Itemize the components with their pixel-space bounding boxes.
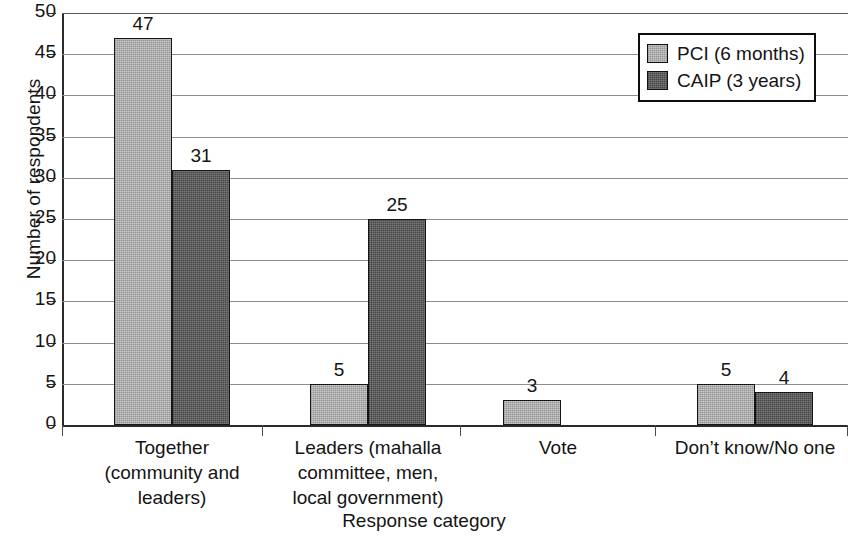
y-tick-label: 30 bbox=[16, 165, 56, 187]
bar-chart: Number of respondents 504540353025201510… bbox=[0, 0, 848, 541]
y-tick-mark bbox=[47, 260, 56, 261]
y-tick-label: 40 bbox=[16, 82, 56, 104]
bar bbox=[503, 400, 561, 425]
legend-label-pci: PCI (6 months) bbox=[677, 43, 805, 65]
gridline bbox=[62, 13, 848, 14]
y-tick-mark bbox=[47, 178, 56, 179]
y-axis-line bbox=[62, 13, 64, 427]
y-tick-label: 10 bbox=[16, 330, 56, 352]
x-category-label-line: local government) bbox=[253, 485, 483, 510]
x-axis-title: Response category bbox=[0, 510, 848, 532]
legend-item-pci: PCI (6 months) bbox=[647, 40, 805, 67]
x-category-label-line: committee, men, bbox=[253, 460, 483, 485]
y-tick-mark bbox=[47, 95, 56, 96]
legend-swatch-icon-caip bbox=[647, 71, 668, 90]
y-tick-mark bbox=[47, 219, 56, 220]
y-tick-label: 45 bbox=[16, 41, 56, 63]
bar bbox=[172, 170, 230, 425]
x-category-label: Don’t know/No one bbox=[643, 435, 848, 460]
x-category-label-line: Leaders (mahalla bbox=[253, 435, 483, 460]
bar-value-label: 4 bbox=[755, 367, 813, 389]
legend-swatch-icon-pci bbox=[647, 44, 668, 63]
y-tick-mark bbox=[47, 384, 56, 385]
bar bbox=[368, 219, 426, 425]
bar-value-label: 47 bbox=[114, 13, 172, 35]
bar-value-label: 31 bbox=[172, 145, 230, 167]
x-category-label-line: Don’t know/No one bbox=[643, 435, 848, 460]
x-category-label-line: Vote bbox=[478, 435, 638, 460]
bar bbox=[755, 392, 813, 425]
legend-item-caip: CAIP (3 years) bbox=[647, 67, 805, 94]
bar-value-label: 5 bbox=[310, 359, 368, 381]
y-tick-label: 5 bbox=[16, 371, 56, 393]
x-category-label-line: Together bbox=[65, 435, 280, 460]
y-tick-mark bbox=[47, 13, 56, 14]
y-tick-mark bbox=[47, 343, 56, 344]
y-tick-label: 35 bbox=[16, 124, 56, 146]
x-category-label-line: leaders) bbox=[65, 485, 280, 510]
legend: PCI (6 months) CAIP (3 years) bbox=[638, 33, 816, 102]
bar bbox=[114, 38, 172, 425]
y-tick-label: 25 bbox=[16, 206, 56, 228]
y-tick-label: 0 bbox=[16, 412, 56, 434]
bar bbox=[310, 384, 368, 425]
y-tick-mark bbox=[47, 54, 56, 55]
y-tick-label: 50 bbox=[16, 0, 56, 22]
legend-label-caip: CAIP (3 years) bbox=[677, 70, 801, 92]
y-tick-label: 20 bbox=[16, 247, 56, 269]
bar bbox=[697, 384, 755, 425]
x-category-label: Together(community andleaders) bbox=[65, 435, 280, 510]
gridline bbox=[62, 425, 848, 427]
bar-value-label: 25 bbox=[368, 194, 426, 216]
y-tick-label: 15 bbox=[16, 288, 56, 310]
bar-value-label: 3 bbox=[503, 375, 561, 397]
y-tick-mark bbox=[47, 137, 56, 138]
bar-value-label: 5 bbox=[697, 359, 755, 381]
x-tick-mark bbox=[62, 425, 63, 436]
y-tick-mark bbox=[47, 301, 56, 302]
x-category-label: Leaders (mahallacommittee, men,local gov… bbox=[253, 435, 483, 510]
y-tick-mark bbox=[47, 425, 56, 426]
x-category-label: Vote bbox=[478, 435, 638, 460]
y-axis-ticks: 50454035302520151050 bbox=[0, 13, 56, 425]
gridline bbox=[62, 137, 848, 138]
x-category-label-line: (community and bbox=[65, 460, 280, 485]
